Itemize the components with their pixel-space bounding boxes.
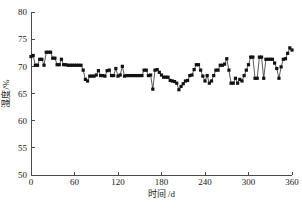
data-point-marker (36, 64, 39, 67)
data-point-marker (156, 68, 159, 71)
data-point-marker (234, 77, 237, 80)
data-point-marker (190, 73, 193, 76)
data-point-marker (212, 74, 215, 77)
data-point-marker (42, 64, 45, 67)
data-point-marker (262, 77, 265, 80)
axis-spines (31, 12, 292, 175)
y-tick-label: 80 (18, 7, 28, 17)
y-axis-ticks: 50556065707580 (18, 7, 35, 180)
data-point-marker (227, 69, 230, 72)
y-axis-label: 湿度/% (0, 79, 11, 108)
data-point-marker (243, 74, 246, 77)
x-axis-ticks: 060120180240300360 (29, 172, 300, 188)
data-point-marker (182, 82, 185, 85)
y-tick-label: 75 (18, 34, 28, 44)
data-point-marker (260, 56, 263, 59)
data-point-marker (60, 58, 63, 61)
data-point-marker (175, 82, 178, 85)
y-tick-label: 55 (18, 143, 28, 153)
y-tick-label: 70 (18, 62, 28, 72)
data-point-marker (247, 63, 250, 66)
data-point-marker (177, 88, 180, 91)
data-point-marker (286, 52, 289, 55)
data-point-marker (86, 79, 89, 82)
data-point-marker (79, 64, 82, 67)
data-point-marker (145, 69, 148, 72)
data-point-marker (95, 73, 98, 76)
data-point-marker (223, 63, 226, 66)
data-point-marker (40, 58, 43, 61)
data-point-marker (103, 75, 106, 78)
data-point-marker (49, 51, 52, 54)
data-point-marker (277, 77, 280, 80)
data-point-marker (210, 79, 213, 82)
data-point-marker (58, 63, 61, 66)
data-point-marker (197, 63, 200, 66)
data-point-marker (201, 75, 204, 78)
data-point-marker (82, 69, 85, 72)
data-point-marker (245, 69, 248, 72)
data-point-marker (236, 82, 239, 85)
data-point-marker (112, 74, 115, 77)
data-point-marker (53, 57, 56, 60)
x-tick-label: 60 (70, 177, 80, 187)
series-line (31, 48, 292, 90)
data-point-marker (256, 77, 259, 80)
data-point-marker (119, 73, 122, 76)
data-point-marker (151, 88, 154, 91)
x-tick-label: 240 (198, 177, 212, 187)
data-series-humidity (29, 46, 293, 91)
data-point-marker (186, 79, 189, 82)
data-point-marker (32, 54, 35, 57)
data-point-marker (271, 58, 274, 61)
x-axis-label: 时间 /d (148, 188, 176, 199)
data-point-marker (193, 68, 196, 71)
data-point-marker (290, 48, 293, 51)
data-point-marker (149, 73, 152, 76)
y-tick-label: 60 (18, 116, 28, 126)
data-point-marker (240, 79, 243, 82)
x-tick-label: 180 (155, 177, 169, 187)
data-point-marker (216, 69, 219, 72)
data-point-marker (140, 74, 143, 77)
data-point-marker (158, 71, 161, 74)
x-tick-label: 0 (29, 177, 34, 187)
x-tick-label: 300 (242, 177, 256, 187)
data-point-marker (273, 61, 276, 64)
data-point-marker (166, 76, 169, 79)
data-point-marker (284, 57, 287, 60)
data-point-marker (251, 56, 254, 59)
data-point-marker (225, 57, 228, 60)
data-point-marker (232, 82, 235, 85)
data-point-marker (275, 67, 278, 70)
y-tick-label: 50 (18, 170, 28, 180)
humidity-time-line-chart: 060120180240300360 50556065707580 时间 /d … (0, 0, 302, 208)
chart-figure: 060120180240300360 50556065707580 时间 /d … (0, 0, 302, 208)
data-point-marker (114, 67, 117, 70)
y-tick-label: 65 (18, 89, 28, 99)
x-tick-label: 120 (111, 177, 125, 187)
x-tick-label: 360 (285, 177, 299, 187)
data-point-marker (203, 79, 206, 82)
data-point-marker (206, 74, 209, 77)
data-point-marker (280, 65, 283, 68)
data-point-marker (121, 65, 124, 68)
data-point-marker (97, 69, 100, 72)
data-point-marker (199, 69, 202, 72)
data-point-marker (108, 69, 111, 72)
